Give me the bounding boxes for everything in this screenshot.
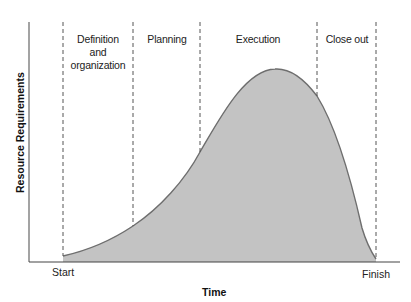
phase-label-definition: Definition and organization xyxy=(69,33,127,72)
resource-area xyxy=(63,69,376,262)
phase-label-planning: Planning xyxy=(135,33,199,46)
y-axis-title: Resource Requirements xyxy=(14,73,26,193)
phase-label-execution: Execution xyxy=(210,33,306,46)
phase-label-line: Definition xyxy=(69,33,127,46)
phase-label-line: and xyxy=(69,46,127,59)
phase-label-line: organization xyxy=(69,59,127,72)
start-label: Start xyxy=(52,266,74,278)
finish-label: Finish xyxy=(362,268,390,280)
phase-label-close-out: Close out xyxy=(320,33,374,46)
x-axis-title: Time xyxy=(202,286,226,298)
